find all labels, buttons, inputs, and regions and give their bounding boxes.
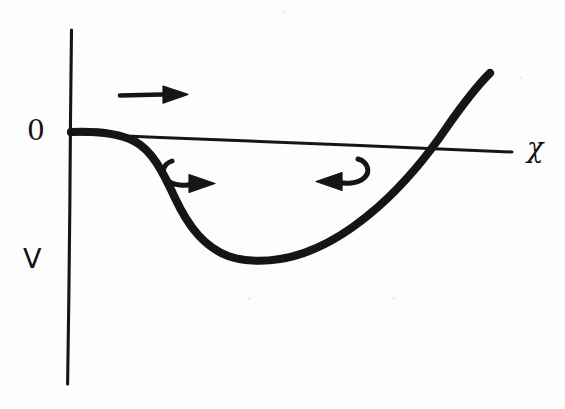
paper-speck	[247, 297, 251, 300]
curved-arrow-right-icon	[316, 159, 368, 191]
paper-speck	[392, 297, 395, 300]
vertical-axis-line	[68, 30, 72, 384]
horizontal-axis-label: χ	[527, 134, 543, 161]
paper-speck	[283, 10, 286, 13]
vertical-axis-label: V	[23, 245, 41, 272]
potential-curve	[71, 73, 490, 261]
straight-right-arrow-icon	[120, 86, 188, 103]
potential-curve-diagram	[0, 0, 565, 409]
origin-label: 0	[27, 117, 45, 145]
paper-speck	[519, 76, 522, 79]
sketch-canvas: 0 V χ	[0, 0, 565, 409]
